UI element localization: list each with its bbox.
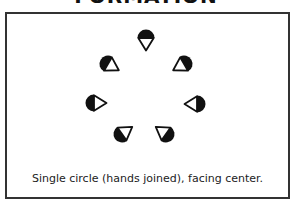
dancer-symbol: [86, 95, 107, 112]
dancer-symbol: [110, 120, 137, 146]
dancer-symbol: [96, 52, 123, 77]
dancer-back-half: [197, 96, 206, 113]
dancer-facing-triangle: [185, 96, 198, 111]
dancer-back-half: [86, 95, 95, 112]
dancer-facing-triangle: [94, 95, 107, 110]
diagram-caption: Single circle (hands joined), facing cen…: [5, 172, 290, 185]
dancer-symbol: [138, 30, 155, 51]
dancer-symbol: [169, 52, 196, 77]
dancer-back-half: [138, 30, 155, 39]
dancer-symbol: [185, 96, 206, 113]
dancer-symbol: [151, 120, 178, 146]
dancers-group: [86, 30, 206, 146]
dancer-facing-triangle: [138, 38, 153, 51]
